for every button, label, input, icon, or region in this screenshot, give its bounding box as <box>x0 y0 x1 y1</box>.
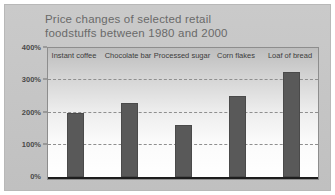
category-label: Instant coffee <box>52 51 97 60</box>
category-label: Loaf of bread <box>268 51 312 60</box>
bar <box>67 113 84 178</box>
category-label: Processed sugar <box>154 51 210 60</box>
y-axis-label: 200% <box>22 107 41 116</box>
category-label: Chocolate bar <box>105 51 152 60</box>
plot-area <box>47 47 319 180</box>
y-axis-label: 300% <box>22 75 41 84</box>
bar-series <box>48 48 318 177</box>
bar <box>121 103 138 177</box>
y-axis-label: 100% <box>22 139 41 148</box>
bar <box>283 72 300 177</box>
chart-title: Price changes of selected retail foodstu… <box>45 13 305 40</box>
chart-screenshot: Price changes of selected retail foodstu… <box>0 0 335 195</box>
bar <box>175 125 192 177</box>
category-labels: Instant coffeeChocolate barProcessed sug… <box>47 51 319 65</box>
figure-frame: Price changes of selected retail foodstu… <box>4 4 331 191</box>
category-label: Corn flakes <box>217 51 255 60</box>
x-axis-baseline <box>48 177 318 179</box>
chart-panel: Price changes of selected retail foodstu… <box>5 5 330 190</box>
bar <box>229 96 246 177</box>
y-axis: 0%100%200%300%400% <box>5 5 47 195</box>
y-axis-label: 0% <box>30 172 41 181</box>
y-axis-label: 400% <box>22 43 41 52</box>
